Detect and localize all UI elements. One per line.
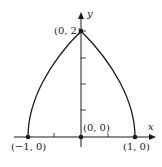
y-axis-arrow-icon bbox=[78, 12, 84, 19]
point-left bbox=[26, 135, 31, 140]
x-axis-arrow-icon bbox=[149, 134, 156, 140]
left-arc bbox=[28, 31, 81, 137]
label-right: (1, 0) bbox=[123, 141, 150, 152]
y-axis-label: y bbox=[86, 8, 93, 19]
point-origin bbox=[79, 135, 84, 140]
x-axis-label: x bbox=[148, 121, 154, 132]
point-right bbox=[133, 135, 138, 140]
diagram-canvas: x y (0, 2) (−1, 0) (0, 0) (1, 0) bbox=[0, 0, 162, 167]
label-left: (−1, 0) bbox=[11, 141, 46, 152]
label-origin: (0, 0) bbox=[83, 122, 110, 133]
label-top: (0, 2) bbox=[54, 25, 81, 36]
